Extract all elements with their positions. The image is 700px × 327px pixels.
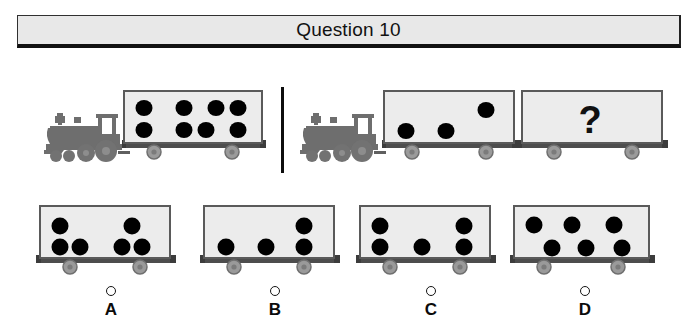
answer-letter-c: C	[425, 301, 437, 318]
answer-option-b[interactable]: B	[200, 205, 350, 327]
answer-car-d	[510, 205, 655, 285]
scene-divider	[281, 87, 284, 173]
answer-radio-a[interactable]	[106, 286, 116, 296]
example-train-right-locomotive	[300, 104, 386, 166]
answer-car-b	[200, 205, 340, 285]
answer-radio-d[interactable]	[580, 286, 590, 296]
answer-option-c[interactable]: C	[356, 205, 506, 327]
answer-letter-d: D	[579, 301, 591, 318]
question-mark-label: ?	[578, 99, 601, 141]
answer-option-a[interactable]: A	[36, 205, 186, 327]
answer-options-row: A	[0, 205, 700, 327]
answer-option-d[interactable]: D	[510, 205, 660, 327]
example-car-2	[382, 90, 518, 166]
answer-slot-car: ?	[518, 90, 668, 166]
example-train-left-locomotive	[44, 104, 130, 166]
example-car-1	[122, 90, 266, 166]
answer-letter-b: B	[269, 301, 281, 318]
answer-car-a	[36, 205, 176, 285]
answer-letter-a: A	[105, 301, 117, 318]
answer-car-c	[356, 205, 496, 285]
answer-radio-c[interactable]	[426, 286, 436, 296]
answer-radio-b[interactable]	[270, 286, 280, 296]
